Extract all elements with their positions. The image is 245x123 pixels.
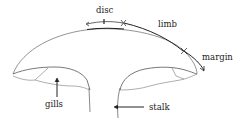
disc-bracket	[87, 22, 123, 24]
stalk-arrowhead	[114, 105, 118, 109]
stalk-label: stalk	[149, 103, 170, 112]
gill-line-right	[120, 68, 197, 90]
gills-label: gills	[45, 100, 63, 109]
stalk-left-edge	[89, 88, 90, 112]
disc-label: disc	[96, 6, 113, 15]
gills-arrowhead	[55, 78, 59, 82]
limb-label: limb	[158, 20, 177, 29]
margin-label: margin	[202, 53, 233, 62]
gill-line-left	[13, 68, 89, 90]
stalk-right-edge	[118, 88, 120, 118]
